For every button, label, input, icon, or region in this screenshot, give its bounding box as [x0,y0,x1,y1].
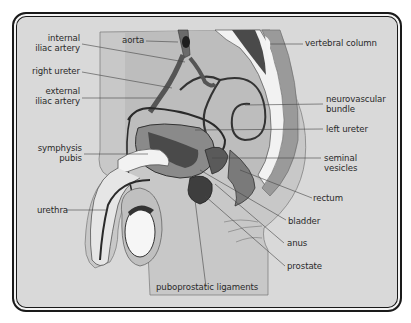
label-symphysis-pubis: symphysis pubis [38,143,82,163]
label-seminal-vesicles: seminal vesicles [324,153,357,173]
label-line: bundle [326,104,386,114]
label-puboprostatic-ligaments: puboprostatic ligaments [156,282,258,292]
label-rectum: rectum [313,193,343,203]
label-line: vesicles [324,163,357,173]
aorta-lumen [182,36,190,48]
label-line: seminal [324,153,357,163]
label-line: neurovascular [326,94,386,104]
label-line: iliac artery [35,96,80,106]
label-neurovascular-bundle: neurovascular bundle [326,94,386,114]
label-internal-iliac-artery: internal iliac artery [35,33,80,53]
label-line: internal [35,33,80,43]
label-anus: anus [287,238,307,248]
label-bladder: bladder [288,216,320,226]
label-external-iliac-artery: external iliac artery [35,86,80,106]
label-vertebral-column: vertebral column [305,38,377,48]
label-left-ureter: left ureter [326,124,368,134]
label-urethra: urethra [37,205,68,215]
label-right-ureter: right ureter [32,66,80,76]
label-line: pubis [38,153,82,163]
label-prostate: prostate [287,261,322,271]
label-line: symphysis [38,143,82,153]
label-aorta: aorta [122,35,144,45]
label-line: iliac artery [35,43,80,53]
label-line: external [35,86,80,96]
